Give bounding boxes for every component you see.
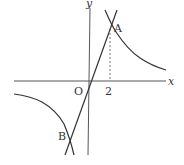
hyperbola-left-branch	[14, 94, 74, 155]
x-axis-label: x	[168, 75, 175, 88]
y-axis-label: y	[85, 0, 93, 10]
point-a-label: A	[113, 22, 123, 35]
graph-canvas: y x O 2 A B	[0, 0, 184, 165]
line-through-origin	[65, 10, 117, 155]
x-tick-label: 2	[105, 85, 112, 98]
origin-label: O	[74, 85, 83, 98]
point-b-label: B	[58, 130, 66, 143]
